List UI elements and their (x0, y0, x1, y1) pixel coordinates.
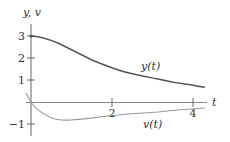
y-tick-label-1: 1 (18, 74, 25, 87)
y-axis-label: y, v (22, 6, 42, 19)
y-tick-label-2: 2 (18, 52, 25, 65)
y-tick-label-minus1: −1 (9, 118, 25, 131)
chart: 3 2 1 −1 2 4 y, v t y(t) v(t) (0, 0, 230, 142)
t-axis-label: t (212, 96, 217, 109)
y-tick-label-3: 3 (18, 30, 25, 43)
curve-y-label: y(t) (140, 60, 160, 73)
curve-y (31, 36, 205, 87)
t-tick-label-2: 2 (109, 107, 116, 120)
curve-y-start-point (29, 34, 32, 37)
curve-v (26, 93, 205, 120)
curve-v-label: v(t) (143, 118, 162, 131)
